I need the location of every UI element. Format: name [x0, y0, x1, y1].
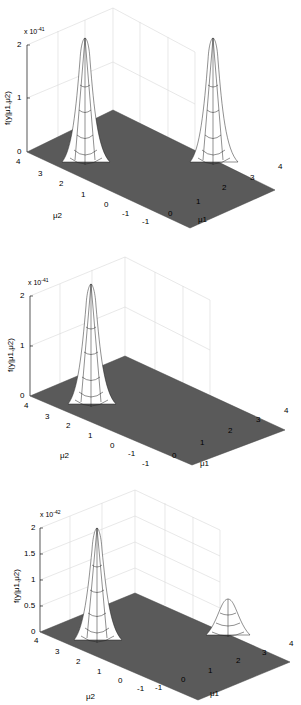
z-tick: 1: [20, 342, 24, 350]
y-axis-label: μ2: [86, 693, 95, 701]
surface-plot-1: x 10-41 2 1 0 f(y|μ1,μ2) 4 3 2 1 0 -1 μ2…: [0, 0, 301, 235]
y-tick: 1: [88, 432, 92, 440]
z-tick: 0.5: [24, 602, 35, 610]
x-tick: 4: [289, 640, 293, 648]
y-tick: 0: [110, 442, 114, 450]
x-tick: 3: [262, 649, 266, 657]
y-tick: 3: [38, 170, 42, 178]
z-tick: 0: [31, 628, 35, 636]
z-tick: 1.5: [24, 550, 35, 558]
x-tick: 0: [172, 452, 176, 460]
y-tick: 4: [34, 637, 38, 645]
x-tick: 2: [222, 184, 226, 192]
x-tick: 1: [208, 667, 212, 675]
z-tick: 0: [20, 392, 24, 400]
x-tick: 4: [284, 407, 288, 415]
y-tick: 4: [16, 158, 20, 166]
y-tick: 2: [76, 658, 80, 666]
x-tick: 2: [236, 657, 240, 665]
x-tick: 1: [196, 198, 200, 206]
z-axis-label: f(y|μ1,μ2): [12, 569, 21, 603]
x-tick: 3: [250, 174, 254, 182]
z-tick: 1: [17, 94, 21, 102]
y-tick: 1: [81, 191, 85, 199]
z-multiplier: x 10-42: [40, 509, 60, 518]
x-tick: 0: [181, 676, 185, 684]
plot-1-canvas: [0, 0, 301, 235]
x-tick: 0: [168, 210, 172, 218]
x-tick: -1: [142, 218, 149, 226]
z-tick: 2: [17, 41, 21, 49]
peak-2: [190, 38, 238, 165]
x-tick: 4: [278, 163, 282, 171]
x-tick: 1: [200, 439, 204, 447]
z-multiplier: x 10-41: [28, 277, 48, 286]
plot-3-canvas: [0, 465, 301, 705]
y-tick: 1: [97, 668, 101, 676]
plot-2-canvas: [0, 232, 301, 467]
z-tick: 0: [17, 148, 21, 156]
z-tick: 2: [31, 524, 35, 532]
x-tick: 2: [228, 427, 232, 435]
surface-floor: [30, 356, 285, 465]
surface-plot-3: x 10-42 2 1.5 1 0.5 0 f(y|μ1,μ2) 4 3 2 1…: [0, 465, 301, 705]
y-tick: -1: [128, 450, 135, 458]
y-tick: -1: [122, 210, 129, 218]
y-tick: 0: [104, 201, 108, 209]
y-tick: -1: [137, 685, 144, 693]
z-multiplier: x 10-41: [24, 26, 44, 35]
y-axis-label: μ2: [53, 212, 62, 220]
x-tick: 3: [256, 416, 260, 424]
z-axis-label: f(y|μ1,μ2): [3, 91, 12, 125]
y-tick: 2: [66, 422, 70, 430]
z-tick: 2: [20, 292, 24, 300]
y-tick: 4: [24, 402, 28, 410]
y-tick: 3: [55, 648, 59, 656]
y-axis-label: μ2: [60, 452, 69, 460]
z-tick: 1: [31, 576, 35, 584]
x-axis-label: μ1: [198, 216, 207, 224]
x-tick: -1: [155, 684, 162, 692]
surface-floor: [40, 593, 290, 700]
x-axis-label: μ1: [210, 690, 219, 698]
y-tick: 3: [45, 413, 49, 421]
surface-plot-2: x 10-41 2 1 0 f(y|μ1,μ2) 4 3 2 1 0 -1 μ2…: [0, 232, 301, 467]
y-tick: 0: [118, 677, 122, 685]
surface-floor: [27, 110, 275, 228]
z-axis-label: f(y|μ1,μ2): [6, 338, 15, 372]
y-tick: 2: [59, 180, 63, 188]
